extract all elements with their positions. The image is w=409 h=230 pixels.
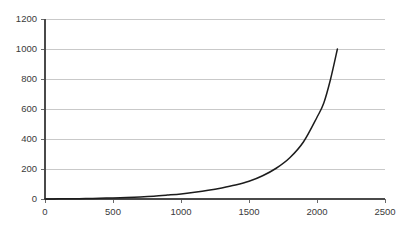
x-tick-label-2500: 2500	[374, 206, 395, 217]
y-tick-label-1200: 1200	[16, 13, 37, 24]
line-chart: 020040060080010001200 050010001500200025…	[0, 0, 409, 230]
y-tick-label-800: 800	[21, 73, 37, 84]
chart-container: 020040060080010001200 050010001500200025…	[0, 0, 409, 230]
y-tick-label-400: 400	[21, 133, 37, 144]
x-tick-label-500: 500	[105, 206, 121, 217]
x-tick-label-2000: 2000	[306, 206, 327, 217]
y-tick-label-600: 600	[21, 103, 37, 114]
y-tick-label-0: 0	[32, 193, 37, 204]
x-tick-label-1500: 1500	[238, 206, 259, 217]
y-tick-label-1000: 1000	[16, 43, 37, 54]
x-tick-label-1000: 1000	[170, 206, 191, 217]
y-tick-label-200: 200	[21, 163, 37, 174]
chart-background	[0, 0, 409, 230]
x-tick-label-0: 0	[42, 206, 47, 217]
